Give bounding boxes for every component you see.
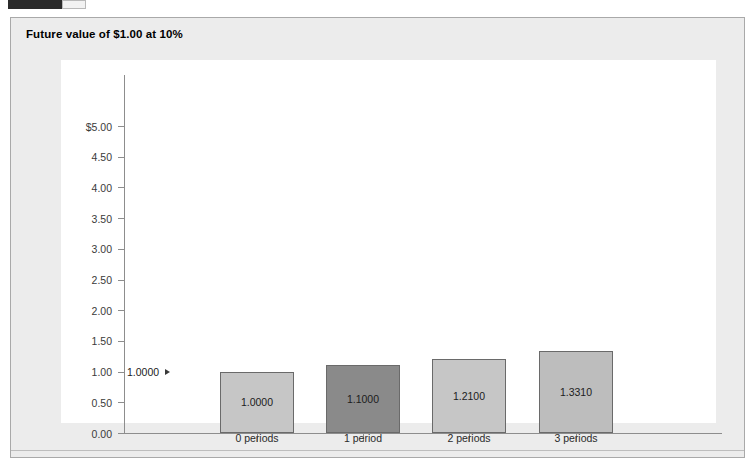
cropped-toolbar-strip[interactable] <box>8 0 86 9</box>
toolbar-strip-light-segment[interactable] <box>62 0 86 9</box>
plot-area: $5.004.504.003.503.002.502.001.501.000.5… <box>61 60 716 423</box>
bar-value-label: 1.1000 <box>327 393 399 405</box>
y-axis-tick: 3.00 <box>118 249 125 250</box>
y-axis-tick-label: 2.00 <box>92 305 112 317</box>
y-axis-tick-label: $5.00 <box>86 121 112 133</box>
chart-title: Future value of $1.00 at 10% <box>26 28 183 40</box>
y-axis-tick-label: 3.00 <box>92 243 112 255</box>
chart-panel: Future value of $1.00 at 10% $5.004.504.… <box>10 17 745 458</box>
screenshot-root: Future value of $1.00 at 10% $5.004.504.… <box>0 0 755 468</box>
bar[interactable]: 1.2100 <box>432 359 506 433</box>
bar-value-label: 1.2100 <box>433 390 505 402</box>
bar[interactable]: 1.3310 <box>539 351 613 433</box>
category-label: 0 periods <box>235 432 278 444</box>
y-axis-tick-label: 1.50 <box>92 335 112 347</box>
y-axis-tick: $5.00 <box>118 126 125 127</box>
y-axis-line <box>124 75 125 434</box>
y-axis-tick: 0.50 <box>118 402 125 403</box>
y-axis-tick-label: 1.00 <box>92 366 112 378</box>
y-axis-tick: 4.50 <box>118 157 125 158</box>
y-axis-tick: 1.50 <box>118 341 125 342</box>
annotation-arrow-icon <box>165 369 170 375</box>
annotation-label: 1.0000 <box>127 366 159 378</box>
category-label: 1 period <box>344 432 382 444</box>
y-axis-tick: 2.50 <box>118 280 125 281</box>
bar-value-label: 1.0000 <box>221 396 293 408</box>
y-axis-tick: 4.00 <box>118 187 125 188</box>
y-axis-tick-label: 2.50 <box>92 274 112 286</box>
y-axis-tick-label: 4.50 <box>92 151 112 163</box>
toolbar-strip-dark-segment[interactable] <box>8 0 62 9</box>
bar-value-label: 1.3310 <box>540 386 612 398</box>
y-axis-tick: 2.00 <box>118 310 125 311</box>
category-label: 3 periods <box>554 432 597 444</box>
panel-bottom-divider <box>11 450 744 451</box>
y-axis-tick: 1.00 <box>118 372 125 373</box>
y-axis-tick-label: 4.00 <box>92 182 112 194</box>
y-axis-tick-label: 3.50 <box>92 213 112 225</box>
y-axis-tick: 3.50 <box>118 218 125 219</box>
y-axis-tick-label: 0.50 <box>92 397 112 409</box>
category-label: 2 periods <box>447 432 490 444</box>
